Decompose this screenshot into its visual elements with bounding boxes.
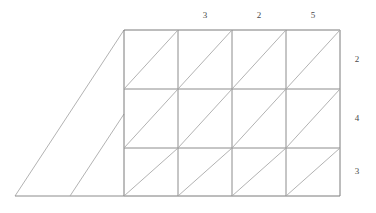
triangle-hypotenuse — [15, 30, 124, 196]
cell-diagonal-r2c3 — [232, 89, 286, 148]
cell-diagonal-r1c3 — [232, 30, 286, 89]
top-label-1: 3 — [198, 10, 212, 21]
top-label-3: 5 — [306, 10, 320, 21]
cell-diagonal-r3c1 — [124, 148, 178, 196]
left-triangle-group — [15, 30, 124, 196]
cell-diagonal-r1c1 — [124, 30, 178, 89]
grid-vertical-lines — [178, 30, 286, 196]
grid-diagram-svg — [0, 0, 376, 213]
right-label-1: 2 — [350, 54, 364, 65]
cell-diagonal-r3c2 — [178, 148, 232, 196]
cell-diagonal-r3c4 — [286, 148, 340, 196]
triangle-inner-diagonal-1 — [70, 114, 124, 196]
right-label-3: 3 — [350, 166, 364, 177]
cell-diagonal-r3c3 — [232, 148, 286, 196]
cell-diagonal-r2c1 — [124, 89, 178, 148]
cell-diagonal-r2c2 — [178, 89, 232, 148]
top-label-2: 2 — [252, 10, 266, 21]
figure-root: 3 2 5 2 4 3 — [0, 0, 376, 213]
cell-diagonal-r1c4 — [286, 30, 340, 89]
cell-diagonal-r2c4 — [286, 89, 340, 148]
cell-diagonal-r1c2 — [178, 30, 232, 89]
right-label-2: 4 — [350, 113, 364, 124]
